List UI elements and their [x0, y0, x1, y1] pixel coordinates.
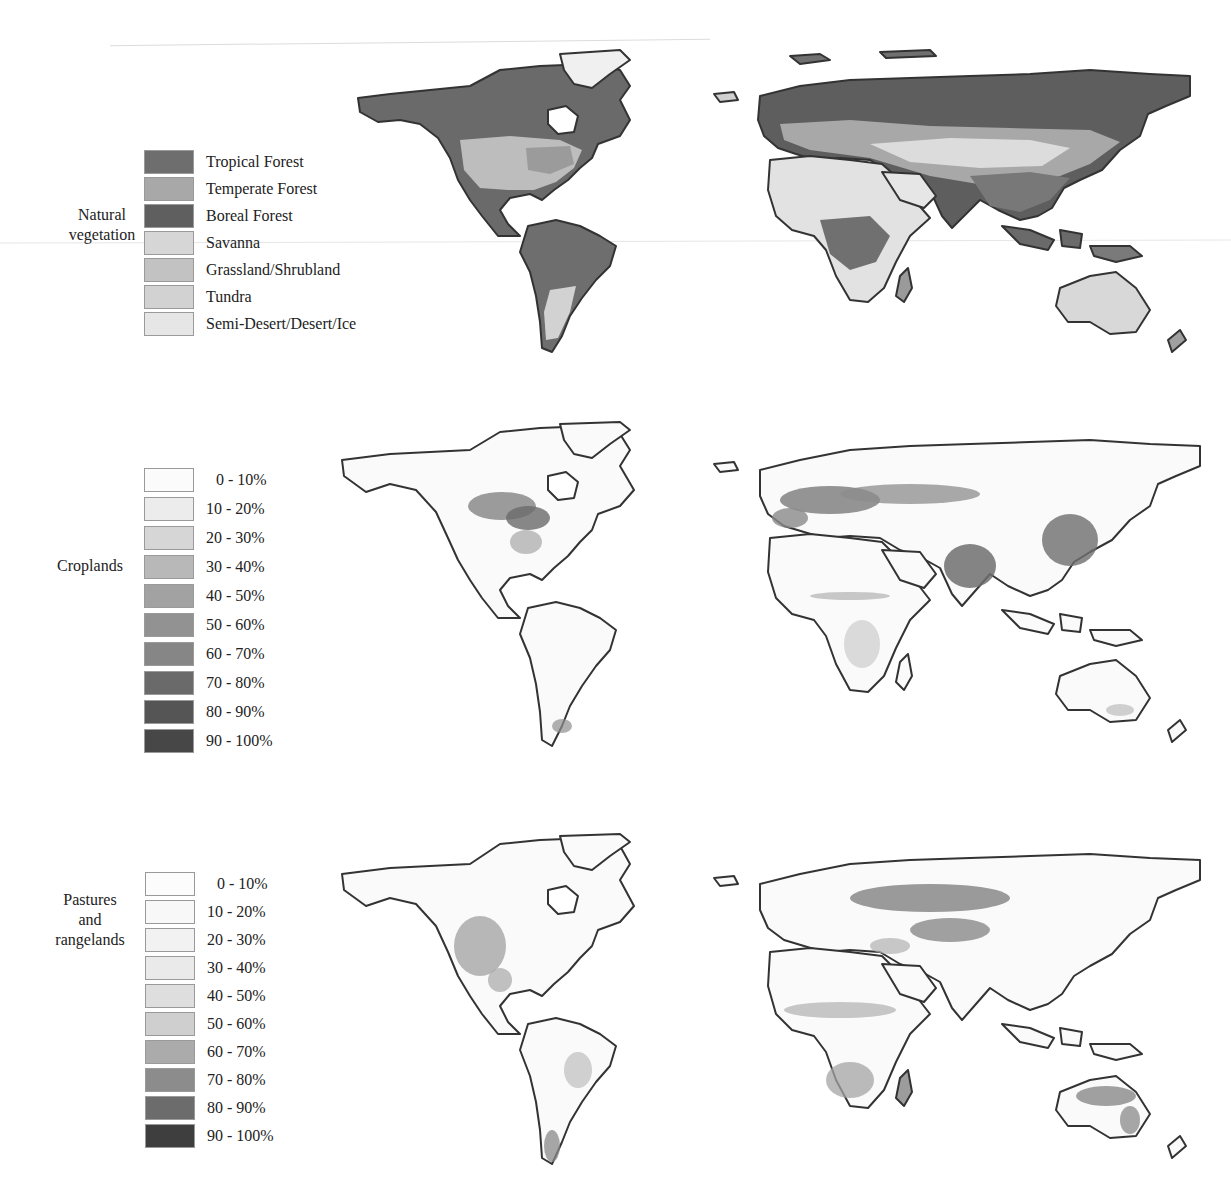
world-map-croplands	[330, 420, 1230, 780]
legend-label: 70 - 80%	[206, 671, 265, 695]
legend-title-line: Croplands	[40, 556, 140, 576]
swatch	[144, 613, 194, 637]
legend-label: 60 - 70%	[206, 642, 265, 666]
legend-title: Pastures and rangelands	[40, 890, 140, 950]
legend-label: 30 - 40%	[207, 956, 266, 980]
legend-label: 30 - 40%	[206, 555, 265, 579]
panel-natural-vegetation: Natural vegetation Tropical Forest Tempe…	[0, 0, 1231, 380]
swatch	[144, 177, 194, 201]
legend-label: 90 - 100%	[207, 1124, 274, 1148]
swatch	[144, 671, 194, 695]
legend-label: 0 - 10%	[217, 872, 268, 896]
swatch	[145, 1096, 195, 1120]
legend-label: 40 - 50%	[206, 584, 265, 608]
swatch	[145, 1040, 195, 1064]
legend-title-line: Natural	[62, 205, 142, 225]
legend-title-line: and	[40, 910, 140, 930]
south-america	[520, 220, 616, 352]
legend-title-line: rangelands	[40, 930, 140, 950]
legend-label: 80 - 90%	[207, 1096, 266, 1120]
legend-title-line: vegetation	[62, 225, 142, 245]
panel-croplands: Croplands 0 - 10% 10 - 20% 20 - 30% 30 -…	[0, 380, 1231, 800]
swatch	[144, 231, 194, 255]
legend-label: 50 - 60%	[207, 1012, 266, 1036]
legend-label: Tropical Forest	[206, 150, 304, 174]
panel-pastures-rangelands: Pastures and rangelands 0 - 10% 10 - 20%…	[0, 800, 1231, 1199]
swatch	[144, 150, 194, 174]
swatch	[144, 312, 194, 336]
legend-label: Tundra	[206, 285, 252, 309]
world-map-natural-vegetation	[330, 40, 1230, 370]
swatch	[144, 258, 194, 282]
legend-title-line: Pastures	[40, 890, 140, 910]
legend-title: Croplands	[40, 556, 140, 576]
legend-label: Temperate Forest	[206, 177, 317, 201]
legend-label: 90 - 100%	[206, 729, 273, 753]
swatch	[145, 984, 195, 1008]
swatch	[144, 584, 194, 608]
swatch	[145, 928, 195, 952]
legend-label: 20 - 30%	[207, 928, 266, 952]
swatch	[144, 555, 194, 579]
legend-label: 40 - 50%	[207, 984, 266, 1008]
legend-label: 10 - 20%	[206, 497, 265, 521]
swatch	[144, 729, 194, 753]
legend-label: Boreal Forest	[206, 204, 293, 228]
legend-label: 10 - 20%	[207, 900, 266, 924]
swatch	[144, 642, 194, 666]
legend-label: 50 - 60%	[206, 613, 265, 637]
swatch	[145, 900, 195, 924]
south-america	[520, 1018, 616, 1164]
legend-title: Natural vegetation	[62, 205, 142, 245]
swatch	[145, 956, 195, 980]
legend-label: 70 - 80%	[207, 1068, 266, 1092]
swatch	[144, 700, 194, 724]
swatch	[144, 285, 194, 309]
legend-label: 20 - 30%	[206, 526, 265, 550]
swatch	[145, 1012, 195, 1036]
swatch	[145, 872, 195, 896]
legend-label: 0 - 10%	[216, 468, 267, 492]
swatch	[145, 1068, 195, 1092]
swatch	[144, 468, 194, 492]
legend-label: 60 - 70%	[207, 1040, 266, 1064]
australia	[1056, 660, 1150, 722]
swatch	[145, 1124, 195, 1148]
world-map-pastures-rangelands	[330, 830, 1230, 1199]
legend-label: 80 - 90%	[206, 700, 265, 724]
australia	[1056, 272, 1150, 334]
legend-label: Grassland/Shrubland	[206, 258, 340, 282]
swatch	[144, 204, 194, 228]
swatch	[144, 526, 194, 550]
legend-label: Savanna	[206, 231, 260, 255]
swatch	[144, 497, 194, 521]
